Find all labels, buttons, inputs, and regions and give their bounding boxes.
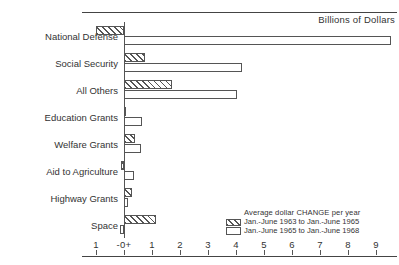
bar-series-1 (124, 107, 126, 116)
legend-swatch-hatched-icon (226, 219, 241, 227)
legend-swatch-open-icon (226, 227, 241, 235)
top-rule (82, 12, 397, 13)
x-axis-tick (292, 250, 293, 255)
x-axis-tick (348, 250, 349, 255)
bar-series-1 (124, 134, 135, 143)
x-axis-tick-label: 8 (345, 239, 350, 250)
x-axis-tick (96, 250, 97, 255)
x-axis-tick (320, 250, 321, 255)
bar-series-2 (124, 144, 141, 153)
x-axis-tick-label: 9 (373, 239, 378, 250)
x-axis-tick (124, 250, 125, 255)
bar-series-2 (124, 36, 391, 45)
x-axis-tick-label: 7 (317, 239, 322, 250)
x-axis-tick (376, 250, 377, 255)
bar-series-1 (124, 80, 172, 89)
bar-series-1 (96, 26, 124, 35)
legend-item-series-2: Jan.-June 1965 to Jan.-June 1968 (226, 227, 360, 236)
bar-series-2 (124, 117, 142, 126)
x-axis-tick (208, 250, 209, 255)
x-axis-tick-label: 4 (233, 239, 238, 250)
bar-series-2 (124, 198, 128, 207)
x-axis-line (82, 256, 397, 257)
x-axis-tick-label: -0+ (117, 239, 132, 250)
bar-series-2 (120, 225, 124, 234)
x-axis-tick-label: 5 (261, 239, 266, 250)
x-axis-tick-label: 6 (289, 239, 294, 250)
bar-series-2 (124, 171, 134, 180)
bar-series-1 (124, 188, 132, 197)
bar-series-1 (121, 161, 124, 170)
x-axis-tick-label: 3 (205, 239, 210, 250)
x-axis-tick (152, 250, 153, 255)
legend-label-series-2: Jan.-June 1965 to Jan.-June 1968 (244, 227, 359, 236)
x-axis-tick-label: 1 (149, 239, 154, 250)
chart-root: Billions of Dollars National DefenseSoci… (0, 0, 399, 265)
x-axis-tick (180, 250, 181, 255)
x-axis-tick (264, 250, 265, 255)
x-axis-tick (236, 250, 237, 255)
bar-series-1 (124, 215, 156, 224)
x-axis-tick-label: 2 (177, 239, 182, 250)
legend-title: Average dollar CHANGE per year (244, 208, 360, 217)
legend: Average dollar CHANGE per year Jan.-June… (226, 208, 360, 235)
bar-series-2 (124, 63, 242, 72)
bar-series-2 (124, 90, 237, 99)
x-axis-tick-label: 1 (93, 239, 98, 250)
bar-series-1 (124, 53, 145, 62)
